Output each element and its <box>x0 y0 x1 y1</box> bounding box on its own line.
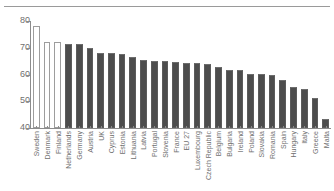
x-axis-tick-mark <box>251 126 252 129</box>
x-axis-tick-label: Germany <box>76 131 83 160</box>
x-axis-tick: Latvia <box>138 129 149 189</box>
x-axis-tick-mark <box>68 126 69 129</box>
x-axis-tick: EU 27 <box>181 129 192 189</box>
bar-column <box>247 21 254 128</box>
bar <box>215 67 222 128</box>
x-axis-tick-mark <box>304 126 305 129</box>
x-axis-tick-label: EU 27 <box>183 131 190 150</box>
bar-column <box>172 21 179 128</box>
x-axis-tick-mark <box>272 126 273 129</box>
bar-column <box>54 21 61 128</box>
bar <box>76 44 83 128</box>
bar-column <box>129 21 136 128</box>
x-axis-tick-label: Portugal <box>151 131 158 157</box>
x-axis-tick-mark <box>111 126 112 129</box>
bar-column <box>140 21 147 128</box>
x-axis-tick-mark <box>229 126 230 129</box>
x-axis-tick: Lithuania <box>127 129 138 189</box>
bar <box>258 74 265 128</box>
x-axis-tick-label: Czech Republic <box>204 131 211 180</box>
x-axis-tick: France <box>170 129 181 189</box>
bar-column <box>301 21 308 128</box>
x-axis-tick-mark <box>58 126 59 129</box>
plot-area: 4050607080 SwedenDenmarkFinlandNetherlan… <box>0 0 334 191</box>
bar <box>119 54 126 128</box>
bar <box>140 60 147 128</box>
x-axis-tick-label: Poland <box>247 131 254 153</box>
bar-column <box>44 21 51 128</box>
x-axis-tick-label: Sweden <box>33 131 40 156</box>
x-axis-tick-mark <box>283 126 284 129</box>
x-axis-tick-mark <box>165 126 166 129</box>
x-axis-tick-mark <box>208 126 209 129</box>
x-axis-tick: Cyprus <box>106 129 117 189</box>
bar <box>312 98 319 128</box>
x-axis-tick-mark <box>47 126 48 129</box>
bar <box>290 87 297 128</box>
x-axis-tick-label: France <box>172 131 179 153</box>
bar <box>301 89 308 128</box>
bar <box>54 42 61 128</box>
x-axis-tick-mark <box>293 126 294 129</box>
bar-column <box>258 21 265 128</box>
bar-column <box>322 21 329 128</box>
bar-column <box>290 21 297 128</box>
bar <box>279 80 286 128</box>
x-axis-tick-mark <box>315 126 316 129</box>
x-axis-tick-label: UK <box>97 131 104 141</box>
x-axis-tick-label: Italy <box>301 131 308 144</box>
x-axis-tick: Austria <box>85 129 96 189</box>
x-axis-tick: Italy <box>299 129 310 189</box>
bar <box>87 48 94 128</box>
bar <box>108 53 115 128</box>
bar <box>33 26 40 128</box>
chart-figure: 4050607080 SwedenDenmarkFinlandNetherlan… <box>0 0 334 191</box>
x-axis-tick: Denmark <box>42 129 53 189</box>
bar-column <box>108 21 115 128</box>
x-axis-tick-label: Belgium <box>215 131 222 156</box>
x-axis-tick-mark <box>154 126 155 129</box>
bar-column <box>76 21 83 128</box>
bar-column <box>226 21 233 128</box>
x-axis-tick: Belgium <box>213 129 224 189</box>
x-axis-tick-mark <box>133 126 134 129</box>
x-axis-tick-label: Malta <box>322 131 329 148</box>
x-axis-tick-label: Netherlands <box>65 131 72 169</box>
x-axis-tick-mark <box>122 126 123 129</box>
x-axis-tick: Poland <box>245 129 256 189</box>
x-axis-tick: Hungary <box>288 129 299 189</box>
x-axis-tick-label: Austria <box>86 131 93 153</box>
bar <box>183 63 190 128</box>
x-axis-tick-mark <box>197 126 198 129</box>
x-axis-tick-label: Luxembourg <box>194 131 201 170</box>
x-axis-tick-label: Bulgaria <box>226 131 233 157</box>
x-axis-tick: Malta <box>320 129 331 189</box>
x-axis-tick: Germany <box>74 129 85 189</box>
x-axis-labels: SwedenDenmarkFinlandNetherlandsGermanyAu… <box>31 129 331 189</box>
x-axis-tick: Bulgaria <box>224 129 235 189</box>
bar <box>226 70 233 128</box>
bar-column <box>65 21 72 128</box>
y-axis-tick-mark <box>26 21 30 22</box>
x-axis-tick-mark <box>36 126 37 129</box>
bar-column <box>162 21 169 128</box>
x-axis-tick: Estonia <box>117 129 128 189</box>
y-axis-tick-mark <box>26 75 30 76</box>
x-axis-tick-label: Denmark <box>44 131 51 159</box>
x-axis-tick: Czech Republic <box>202 129 213 189</box>
x-axis-tick-label: Ireland <box>236 131 243 152</box>
bar-column <box>215 21 222 128</box>
x-axis-tick-label: Romania <box>269 131 276 159</box>
bar <box>194 63 201 128</box>
x-axis-tick: Portugal <box>149 129 160 189</box>
x-axis-tick-mark <box>176 126 177 129</box>
x-axis-tick-mark <box>90 126 91 129</box>
bar-column <box>183 21 190 128</box>
bar-column <box>269 21 276 128</box>
x-axis-tick-mark <box>79 126 80 129</box>
x-axis-tick-label: Slovenia <box>161 131 168 158</box>
x-axis-tick-mark <box>101 126 102 129</box>
x-axis-tick: Spain <box>277 129 288 189</box>
x-axis-tick-label: Hungary <box>290 131 297 157</box>
bar <box>247 74 254 128</box>
